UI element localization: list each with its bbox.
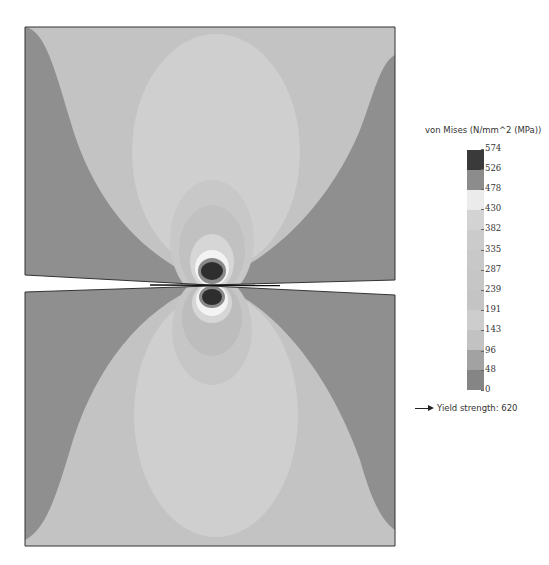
colorbar-tick: 143 <box>485 324 501 334</box>
legend-title: von Mises (N/mm^2 (MPa)) <box>425 125 541 135</box>
colorbar-band <box>467 270 484 290</box>
colorbar-band <box>467 230 484 250</box>
colorbar-tick: 48 <box>485 364 496 374</box>
colorbar-band <box>467 330 484 350</box>
colorbar-band <box>467 210 484 230</box>
colorbar-band <box>467 170 484 190</box>
contact-line <box>150 285 280 286</box>
colorbar-tick: 430 <box>485 203 501 213</box>
colorbar-band <box>467 290 484 310</box>
yield-strength-indicator: Yield strength: 620 <box>415 403 518 413</box>
colorbar-tick: 574 <box>485 143 501 153</box>
colorbar-tick: 0 <box>485 384 490 394</box>
colorbar-tick: 96 <box>485 345 496 355</box>
colorbar-tick: 526 <box>485 163 501 173</box>
yield-strength-label: Yield strength: 620 <box>437 403 518 413</box>
bottom-block <box>20 275 400 550</box>
colorbar-tick: 239 <box>485 284 501 294</box>
colorbar-tick: 382 <box>485 223 501 233</box>
colorbar-band <box>467 250 484 270</box>
colorbar-band <box>467 370 484 390</box>
top-block <box>20 20 400 300</box>
colorbar-tick: 335 <box>485 244 501 254</box>
colorbar-tick: 191 <box>485 304 501 314</box>
arrow-right-icon <box>415 404 435 412</box>
colorbar-band <box>467 150 484 170</box>
colorbar-band <box>467 190 484 210</box>
colorbar-tick: 287 <box>485 264 501 274</box>
colorbar-band <box>467 310 484 330</box>
colorbar-band <box>467 350 484 370</box>
colorbar-tick: 478 <box>485 183 501 193</box>
